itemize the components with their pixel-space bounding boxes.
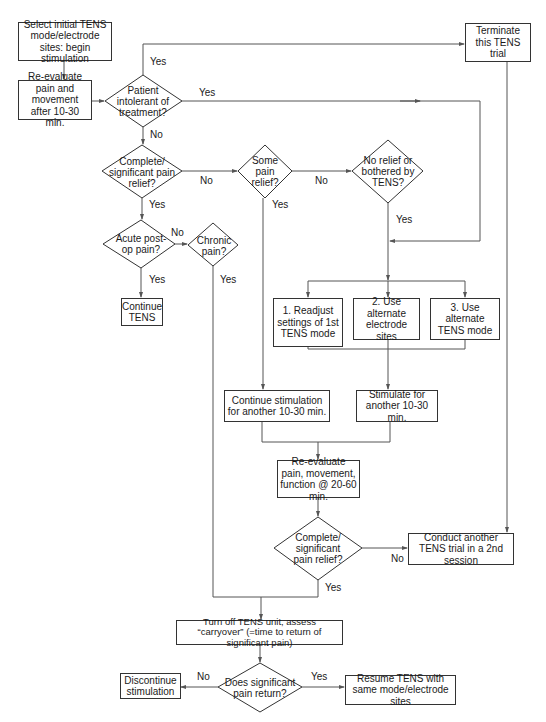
edge-label-chronic-yes: Yes <box>220 274 236 285</box>
reevaluate-2-text: Re-evaluate pain, movement, function @ 2… <box>280 456 357 502</box>
edge-label-complete1-yes: Yes <box>149 199 165 210</box>
continue-stim-box: Continue stimulation for another 10-30 m… <box>224 390 330 422</box>
continue-tens-text: Continue TENS <box>122 301 162 324</box>
terminate-box: Terminate this TENS trial <box>465 23 531 62</box>
edge-label-complete2-no: No <box>391 553 404 564</box>
turn-off-text: Turn off TENS unit, assess “carryover” (… <box>179 617 340 649</box>
edge-label-acute-yes: Yes <box>149 274 165 285</box>
reevaluate-2-box: Re-evaluate pain, movement, function @ 2… <box>277 460 360 498</box>
edge-label-intolerant-no: No <box>150 129 163 140</box>
conduct-another-box: Conduct another TENS trial in a 2nd sess… <box>408 533 514 565</box>
edge-label-return-yes: Yes <box>311 671 327 682</box>
intolerant-decision-text: Patient intolerant of treatment? <box>115 83 171 119</box>
select-initial-box: Select initial TENS mode/electrode sites… <box>18 22 112 61</box>
discontinue-box: Discontinue stimulation <box>120 673 181 699</box>
stimulate-box: Stimulate for another 10-30 min. <box>356 390 438 422</box>
stimulate-text: Stimulate for another 10-30 min. <box>359 389 435 424</box>
resume-text: Resume TENS with same mode/electrode sit… <box>348 673 453 708</box>
edge-label-intolerant-yes-top: Yes <box>150 56 166 67</box>
edge-label-acute-no: No <box>171 227 184 238</box>
complete-relief-1-decision-text: Complete/ significant pain relief? <box>104 154 180 190</box>
no-relief-decision-text: No relief or bothered by TENS? <box>356 153 420 189</box>
resume-box: Resume TENS with same mode/electrode sit… <box>345 675 456 705</box>
option-1-text: 1. Readjust settings of 1st TENS mode <box>276 305 340 340</box>
option-1-box: 1. Readjust settings of 1st TENS mode <box>273 298 343 347</box>
turn-off-box: Turn off TENS unit, assess “carryover” (… <box>176 620 343 645</box>
terminate-text: Terminate this TENS trial <box>468 25 528 60</box>
continue-tens-box: Continue TENS <box>121 298 163 326</box>
option-2-box: 2. Use alternate electrode sites <box>353 298 420 340</box>
edge-label-norelief-yes: Yes <box>396 214 412 225</box>
reevaluate-1-box: Re-evaluate pain and movement after 10-3… <box>18 80 92 120</box>
edge-label-some-no: No <box>315 175 328 186</box>
edge-label-return-no: No <box>197 671 210 682</box>
option-2-text: 2. Use alternate electrode sites <box>356 296 417 342</box>
tens-flowchart: Select initial TENS mode/electrode sites… <box>0 0 546 722</box>
edge-label-intolerant-yes-right: Yes <box>199 87 215 98</box>
reevaluate-1-text: Re-evaluate pain and movement after 10-3… <box>21 71 89 129</box>
option-3-box: 3. Use alternate TENS mode <box>430 298 500 340</box>
select-initial-text: Select initial TENS mode/electrode sites… <box>21 19 109 65</box>
edge-label-complete2-yes: Yes <box>325 582 341 593</box>
discontinue-text: Discontinue stimulation <box>123 675 178 698</box>
pain-return-decision-text: Does significant pain return? <box>222 670 298 706</box>
option-3-text: 3. Use alternate TENS mode <box>433 302 497 337</box>
continue-stim-text: Continue stimulation for another 10-30 m… <box>227 395 327 418</box>
some-relief-decision-text: Some pain relief? <box>243 153 287 189</box>
edge-label-complete1-no: No <box>200 175 213 186</box>
chronic-decision-text: Chronic pain? <box>192 234 236 258</box>
conduct-another-text: Conduct another TENS trial in a 2nd sess… <box>411 532 511 567</box>
edge-label-some-yes: Yes <box>272 199 288 210</box>
acute-postop-decision-text: Acute post-op pain? <box>115 226 167 262</box>
complete-relief-2-decision-text: Complete/ significant pain relief? <box>288 530 348 566</box>
